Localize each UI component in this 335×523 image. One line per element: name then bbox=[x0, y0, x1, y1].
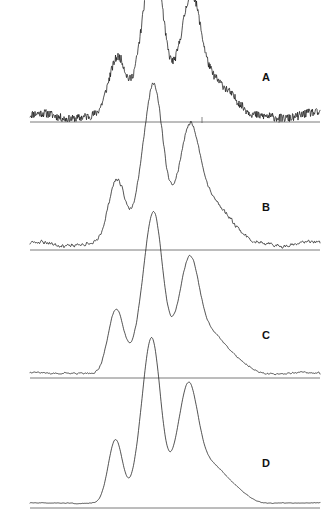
panel-label-d: D bbox=[262, 458, 270, 469]
spectra-figure: ABCD bbox=[0, 0, 335, 523]
trace-canvas-d bbox=[0, 0, 335, 523]
spectrum-trace-d bbox=[30, 337, 320, 503]
